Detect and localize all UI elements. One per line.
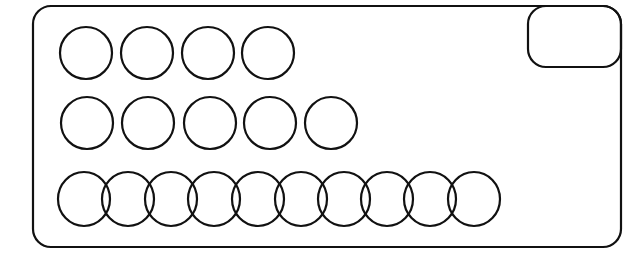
corner-box (528, 6, 621, 67)
circle-row-2 (61, 97, 357, 149)
circle-icon (182, 27, 234, 79)
circle-icon (244, 97, 296, 149)
circle-icon (318, 172, 370, 226)
circle-icon (242, 27, 294, 79)
circle-row-3 (58, 172, 500, 226)
circle-icon (361, 172, 413, 226)
circle-icon (275, 172, 327, 226)
circle-icon (305, 97, 357, 149)
circle-icon (60, 27, 112, 79)
circle-icon (145, 172, 197, 226)
circle-rows (58, 27, 500, 226)
circle-row-1 (60, 27, 294, 79)
circle-icon (61, 97, 113, 149)
circle-icon (121, 27, 173, 79)
diagram-canvas (0, 0, 633, 274)
circle-icon (184, 97, 236, 149)
circle-icon (122, 97, 174, 149)
